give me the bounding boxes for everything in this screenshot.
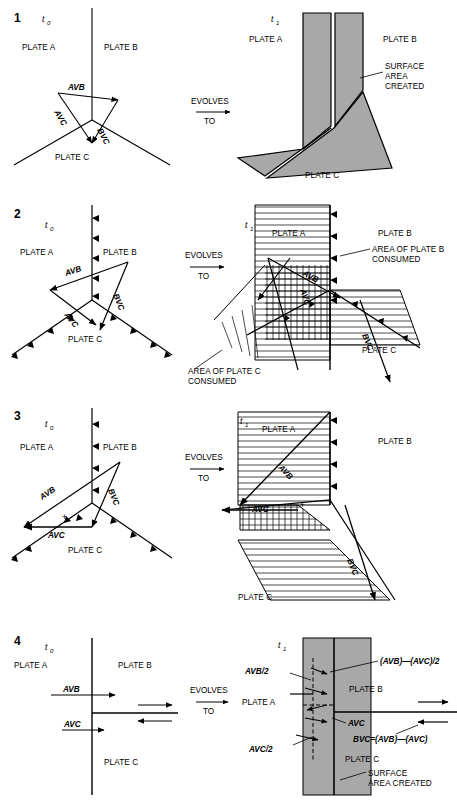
vector-avb bbox=[58, 93, 118, 100]
panel-2-label-avb: AVB bbox=[63, 264, 83, 278]
panel-2-right-time: t bbox=[245, 220, 248, 230]
panel-2-vector-avb bbox=[50, 262, 128, 290]
panel-2-left-plate-c: PLATE C bbox=[68, 335, 102, 344]
panel-2-right-time-sub: 1 bbox=[250, 226, 253, 232]
panel-2-right-plate-b: PLATE B bbox=[378, 229, 412, 238]
panel-2-ann-b-2: CONSUMED bbox=[372, 255, 421, 264]
teeth-ab bbox=[92, 215, 99, 300]
panel-4-evolves-label: EVOLVES bbox=[190, 686, 228, 695]
panel-1-right-plate-a: PLATE A bbox=[249, 35, 283, 44]
panel-2-left-time: t bbox=[45, 220, 48, 230]
panel-3-label-bvc: BVC bbox=[106, 487, 121, 507]
panel-2-ann-c-2: CONSUMED bbox=[188, 377, 237, 386]
panel-1-number: 1 bbox=[14, 11, 21, 25]
panel-4-label-avb: AVB bbox=[62, 685, 80, 694]
panel-3-teeth-ac bbox=[11, 545, 32, 562]
panel-4-right-plate-a: PLATE A bbox=[242, 698, 276, 707]
panel-3-evolves-to: TO bbox=[198, 474, 209, 483]
consumed-crosshatch bbox=[265, 265, 330, 340]
panel-2-left-diagram: PLATE A PLATE B PLATE C AVB AVC BVC bbox=[11, 205, 172, 359]
panel-3-left-time-sub: 0 bbox=[50, 425, 54, 431]
panel-3-left-plate-a: PLATE A bbox=[20, 443, 54, 452]
panel-3-left-plate-b: PLATE B bbox=[103, 443, 137, 452]
panel-3-right-label-avc: AVC bbox=[251, 505, 270, 514]
panel-1-label-avc: AVC bbox=[52, 108, 69, 129]
panel-3-plus: + bbox=[62, 513, 67, 522]
panel-4-label-avc: AVC bbox=[63, 720, 82, 729]
panel-4-left-plate-c: PLATE C bbox=[104, 758, 138, 767]
panel-4-right-time: t bbox=[278, 640, 281, 650]
panel-2-left-time-sub: 0 bbox=[50, 226, 54, 232]
panel-3-right-plate-b: PLATE B bbox=[378, 437, 412, 446]
panel-4-left-diagram: PLATE A PLATE B PLATE C AVB AVC bbox=[14, 638, 178, 795]
panel-3-number: 3 bbox=[14, 409, 21, 423]
figure-svg: 1 t 0 PLATE A PLATE B PLATE C AVB AVC BV… bbox=[0, 0, 457, 806]
panel-4-left-time: t bbox=[45, 642, 48, 652]
triple-junction-figure: 1 t 0 PLATE A PLATE B PLATE C AVB AVC BV… bbox=[0, 0, 457, 806]
panel-1-ann-3: CREATED bbox=[385, 82, 424, 91]
panel-2-evolves-to: TO bbox=[198, 272, 209, 281]
panel-3-right-plate-c: PLATE C bbox=[238, 593, 272, 602]
panel-1-ann-2: AREA bbox=[385, 72, 408, 81]
panel-4: 4 t 0 PLATE A PLATE B PLATE C AVB AVC EV… bbox=[14, 634, 457, 795]
panel-1-left-plate-b: PLATE B bbox=[104, 43, 138, 52]
panel-1-left-diagram: PLATE A PLATE B PLATE C AVB AVC BVC bbox=[14, 8, 170, 165]
panel-3-right-teeth-ab bbox=[330, 417, 337, 490]
panel-1-left-time: t bbox=[42, 14, 45, 24]
panel-3-left-diagram: PLATE A PLATE B PLATE C AVB AVC BVC + bbox=[11, 408, 172, 562]
panel-1-right-plate-b: PLATE B bbox=[383, 35, 417, 44]
panel-4-ann-2: AREA CREATED bbox=[368, 779, 432, 788]
panel-2-leader-c bbox=[196, 350, 222, 368]
panel-3-right-plate-a: PLATE A bbox=[262, 425, 296, 434]
panel-4-right-time-sub: 1 bbox=[283, 646, 286, 652]
panel-2-label-bvc: BVC bbox=[111, 292, 126, 312]
panel-4-ann-1: SURFACE bbox=[368, 769, 408, 778]
surface-arm-a bbox=[303, 13, 331, 149]
panel-3-left-plate-c: PLATE C bbox=[68, 546, 102, 555]
panel-1: 1 t 0 PLATE A PLATE B PLATE C AVB AVC BV… bbox=[14, 8, 425, 180]
panel-3-teeth-bc bbox=[110, 517, 157, 552]
panel-2-number: 2 bbox=[14, 207, 21, 221]
panel-4-label-diff-half: (AVB)—(AVC)/2 bbox=[380, 657, 440, 666]
panel-1-right-time: t bbox=[271, 14, 274, 24]
panel-1-right-plate-c: PLATE C bbox=[305, 171, 339, 180]
panel-4-left-plate-b: PLATE B bbox=[118, 661, 152, 670]
panel-1-right-time-sub: 1 bbox=[276, 20, 279, 26]
panel-3-evolves: EVOLVES TO bbox=[185, 453, 224, 483]
panel-1-evolves-label: EVOLVES bbox=[191, 97, 229, 106]
panel-3-right-diagram: t 1 PLATE A PLATE B PLATE C AVB AVC BVC … bbox=[222, 412, 412, 602]
panel-3-label-avb: AVB bbox=[37, 485, 57, 502]
panel-4-number: 4 bbox=[14, 634, 21, 648]
panel-1-label-avb: AVB bbox=[67, 83, 85, 92]
panel-3-evolves-label: EVOLVES bbox=[185, 453, 223, 462]
panel-2-ann-b-1: AREA OF PLATE B bbox=[372, 245, 445, 254]
panel-1-left-plate-a: PLATE A bbox=[22, 43, 56, 52]
panel-4-label-avc-right: AVC bbox=[347, 719, 366, 728]
panel-2-evolves: EVOLVES TO bbox=[185, 251, 224, 281]
panel-2-right-diagram: t 1 bbox=[188, 205, 445, 386]
panel-1-left-plate-c: PLATE C bbox=[55, 153, 89, 162]
panel-2-ann-c-1: AREA OF PLATE C bbox=[188, 367, 261, 376]
teeth-bc bbox=[110, 314, 171, 358]
panel-1-right-diagram: t 1 PLATE A PLATE B PLATE C SURFACE AREA… bbox=[238, 13, 425, 180]
panel-4-left-time-sub: 0 bbox=[50, 648, 54, 654]
panel-4-left-plate-a: PLATE A bbox=[14, 661, 48, 670]
panel-3-label-avc: AVC bbox=[47, 531, 66, 540]
panel-4-label-avc-half: AVC/2 bbox=[248, 745, 273, 754]
panel-4-right-plate-b: PLATE B bbox=[349, 685, 383, 694]
panel-1-ann-1: SURFACE bbox=[385, 62, 425, 71]
panel-4-label-bvc-eq: BVC=(AVB)—(AVC) bbox=[353, 735, 428, 744]
panel-4-label-avb-half: AVB/2 bbox=[244, 667, 269, 676]
panel-3: 3 t 0 PLATE A PLATE B PLATE C bbox=[11, 408, 412, 602]
panel-4-evolves-to: TO bbox=[203, 707, 214, 716]
panel-1-evolves-to: TO bbox=[204, 117, 215, 126]
panel-2-left-plate-b: PLATE B bbox=[103, 248, 137, 257]
panel-2-left-plate-a: PLATE A bbox=[20, 248, 54, 257]
panel-2-right-plate-a: PLATE A bbox=[272, 229, 306, 238]
panel-2-leader-b bbox=[340, 249, 370, 256]
panel-3-trench-bc bbox=[92, 503, 172, 558]
panel-3-left-time: t bbox=[45, 419, 48, 429]
panel-2-evolves-label: EVOLVES bbox=[185, 251, 223, 260]
panel-3-plate-c-hatch bbox=[238, 540, 390, 600]
panel-4-right-plate-c: PLATE C bbox=[345, 755, 379, 764]
